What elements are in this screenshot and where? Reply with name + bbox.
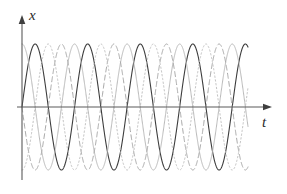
right-arrow-icon <box>263 104 272 111</box>
y-axis-label: x <box>29 8 36 23</box>
vertical-axis <box>19 15 26 180</box>
up-arrow-icon <box>19 15 26 24</box>
x-axis-label: t <box>262 115 266 130</box>
oscillation-figure: x t <box>0 0 287 194</box>
plot-area <box>0 0 287 194</box>
horizontal-axis <box>17 104 272 111</box>
